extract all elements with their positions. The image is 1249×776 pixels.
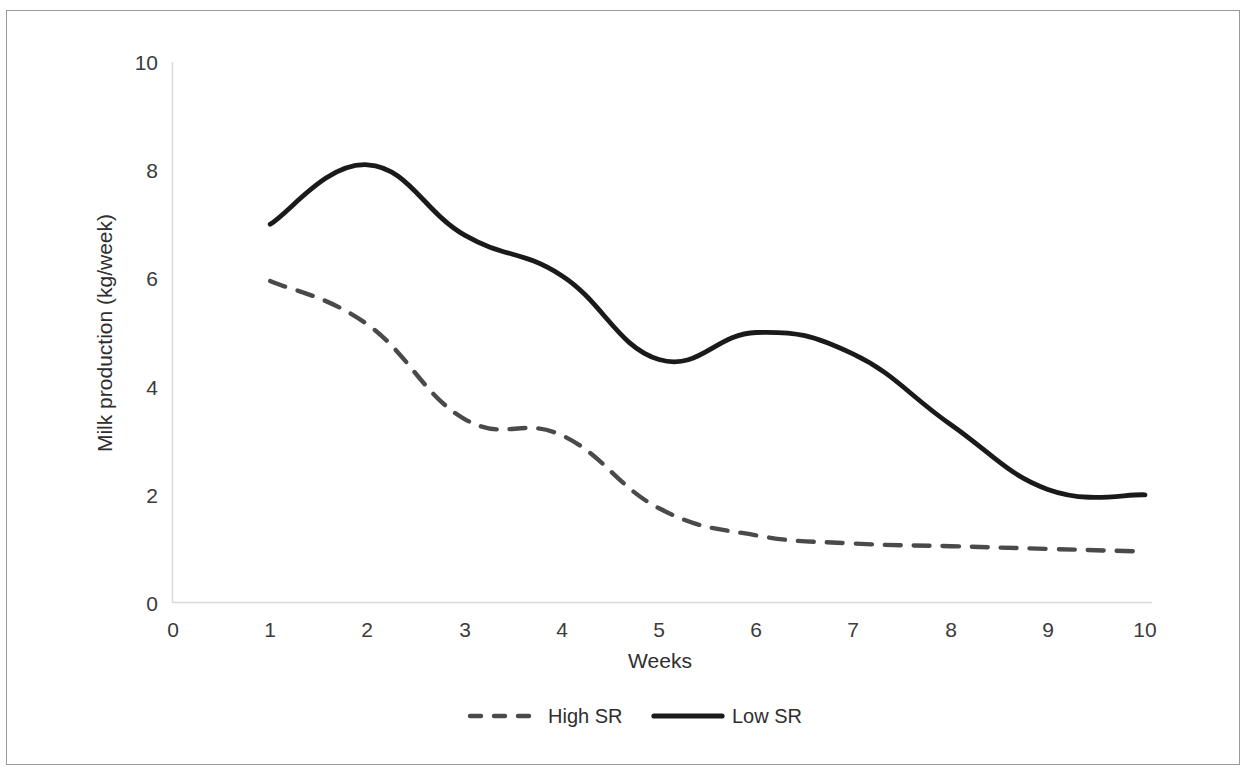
- x-tick-label-0: 0: [167, 618, 179, 641]
- x-tick-label-4: 4: [556, 618, 568, 641]
- y-tick-label-8: 8: [146, 159, 158, 182]
- y-axis-title: Milk production (kg/week): [93, 214, 116, 452]
- x-tick-label-1: 1: [264, 618, 276, 641]
- y-tick-label-2: 2: [146, 484, 158, 507]
- y-tick-label-6: 6: [146, 267, 158, 290]
- legend-label-high-sr: High SR: [548, 705, 622, 727]
- x-tick-label-3: 3: [459, 618, 471, 641]
- x-axis-title: Weeks: [628, 649, 692, 672]
- series-line-high-sr: [270, 281, 1145, 552]
- y-tick-label-10: 10: [135, 51, 158, 74]
- legend: High SR Low SR: [470, 705, 802, 727]
- x-tick-label-10: 10: [1133, 618, 1156, 641]
- x-tick-label-5: 5: [653, 618, 665, 641]
- line-chart: 10 8 6 4 2 0 0 1 2 3 4 5 6 7 8 9 10 Milk…: [0, 0, 1249, 776]
- y-tick-label-4: 4: [146, 376, 158, 399]
- x-tick-label-9: 9: [1042, 618, 1054, 641]
- x-tick-label-7: 7: [847, 618, 859, 641]
- legend-label-low-sr: Low SR: [732, 705, 802, 727]
- x-tick-label-6: 6: [750, 618, 762, 641]
- series-line-low-sr: [270, 165, 1145, 498]
- x-tick-label-8: 8: [945, 618, 957, 641]
- figure-container: 10 8 6 4 2 0 0 1 2 3 4 5 6 7 8 9 10 Milk…: [0, 0, 1249, 776]
- x-tick-label-2: 2: [361, 618, 373, 641]
- y-tick-label-0: 0: [146, 592, 158, 615]
